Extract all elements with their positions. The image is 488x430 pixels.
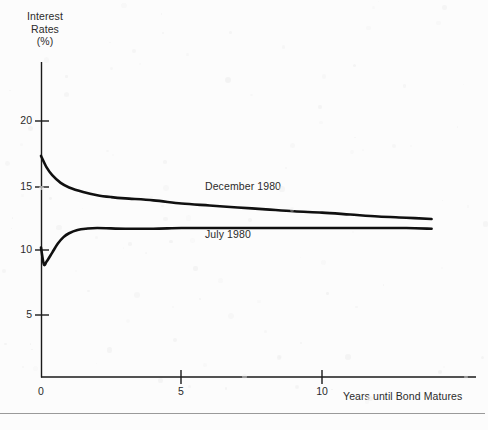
y-tick-label-10: 10 <box>6 243 32 255</box>
footer-divider <box>0 413 485 414</box>
x-tick-label-0: 0 <box>28 385 54 397</box>
y-tick-label-15: 15 <box>6 180 32 192</box>
x-tick-label-5: 5 <box>168 385 194 397</box>
x-axis-title: Years until Bond Matures <box>343 390 462 403</box>
series-label-july-1980: July 1980 <box>205 228 251 240</box>
series-label-december-1980: December 1980 <box>205 180 281 192</box>
y-tick-label-20: 20 <box>6 114 32 126</box>
x-tick-label-10: 10 <box>309 385 335 397</box>
y-tick-label-5: 5 <box>6 308 32 320</box>
